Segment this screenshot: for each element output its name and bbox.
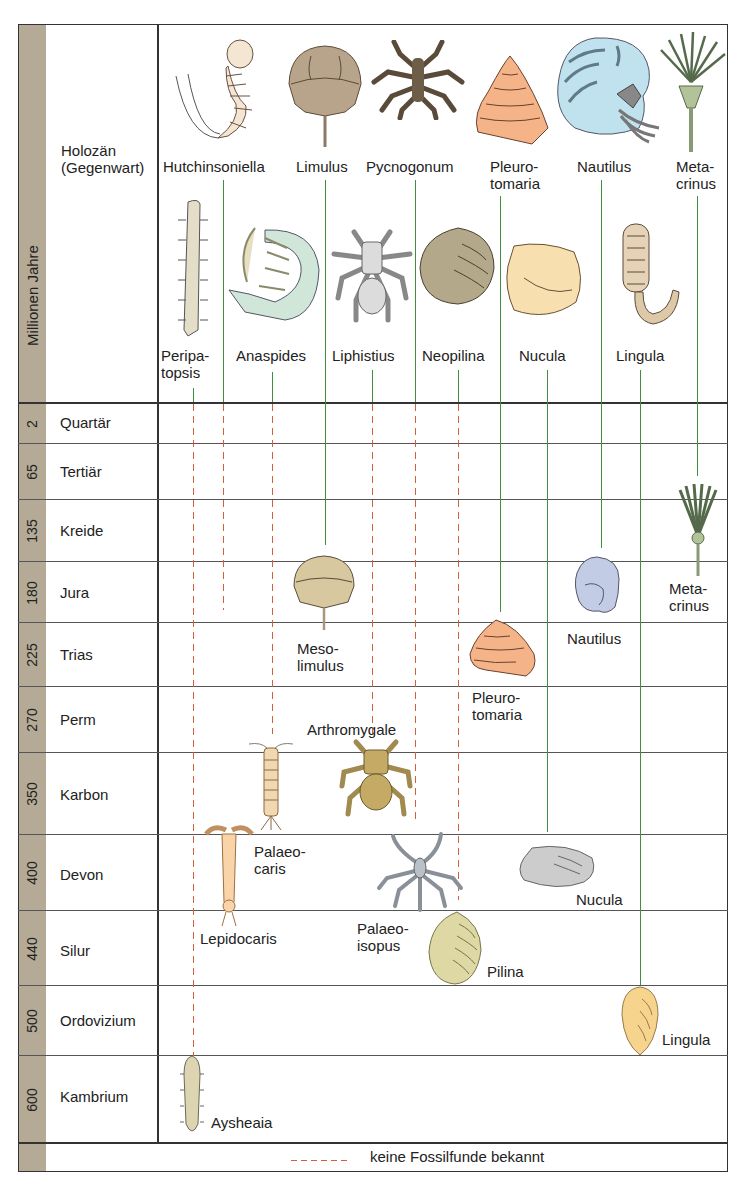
present-label-line2: (Gegenwart) xyxy=(61,159,144,176)
present-label-line1: Holozän xyxy=(61,142,144,159)
ma-trias: 225 xyxy=(18,624,46,686)
line-neopilina-gap xyxy=(458,404,459,900)
era-trias: Trias xyxy=(60,646,93,663)
label-lingula-fossil: Lingula xyxy=(662,1031,710,1048)
label-pleurotomaria-living: Pleuro-tomaria xyxy=(490,158,540,192)
ma-jura: 180 xyxy=(18,563,46,622)
ma-karbon: 350 xyxy=(18,754,46,834)
era-kreide: Kreide xyxy=(60,522,103,539)
line-anaspides-living xyxy=(272,372,273,402)
label-limulus: Limulus xyxy=(296,158,348,175)
line-metacrinus xyxy=(697,196,698,476)
metacrinus-icon xyxy=(655,30,730,155)
line-peripatopsis-living xyxy=(193,388,194,402)
label-line: Palaeo- xyxy=(357,920,409,937)
ma-value: 500 xyxy=(24,1009,40,1032)
era-devon: Devon xyxy=(60,866,103,883)
label-nautilus-living: Nautilus xyxy=(577,158,631,175)
ma-quartaer: 2 xyxy=(18,405,46,443)
peripatopsis-icon xyxy=(170,190,215,342)
era-jura: Jura xyxy=(60,584,89,601)
line-anaspides-gap xyxy=(272,404,273,734)
anaspides-icon xyxy=(225,220,325,330)
pycnogonum-icon xyxy=(370,40,465,120)
axis-title: Millionen Jahre xyxy=(18,195,46,395)
palaeocaris-icon xyxy=(245,738,297,832)
pleurotomaria-fossil-icon xyxy=(466,618,538,682)
ma-value: 65 xyxy=(24,464,40,480)
ma-value: 180 xyxy=(24,581,40,604)
label-line: Peripa- xyxy=(161,347,209,364)
ma-value: 135 xyxy=(24,519,40,542)
era-karbon: Karbon xyxy=(60,786,108,803)
pilina-icon xyxy=(427,910,483,986)
limulus-icon xyxy=(285,42,365,152)
aysheaia-icon xyxy=(178,1054,206,1140)
label-mesolimulus: Meso-limulus xyxy=(297,640,344,674)
line-liphistius-living xyxy=(372,370,373,402)
nucula-fossil-icon xyxy=(518,844,598,892)
column-divider xyxy=(157,24,159,1142)
label-line: crinus xyxy=(676,175,716,192)
era-tertiaer: Tertiär xyxy=(60,463,102,480)
line-lingula xyxy=(640,370,641,985)
ma-ordovizium: 500 xyxy=(18,987,46,1055)
pleurotomaria-icon xyxy=(470,52,560,147)
label-line: Pleuro- xyxy=(490,158,540,175)
line-nucula xyxy=(547,370,548,832)
label-liphistius: Liphistius xyxy=(332,347,395,364)
ma-value: 2 xyxy=(24,420,40,428)
label-aysheaia: Aysheaia xyxy=(211,1114,272,1131)
era-quartaer: Quartär xyxy=(60,414,111,431)
line-liphistius-gap xyxy=(372,404,373,734)
arthromygale-icon xyxy=(336,736,416,826)
label-metacrinus-fossil: Meta-crinus xyxy=(669,580,709,614)
era-kambrium: Kambrium xyxy=(60,1088,128,1105)
liphistius-icon xyxy=(328,222,416,330)
era-silur: Silur xyxy=(60,942,90,959)
label-line: tomaria xyxy=(490,175,540,192)
neopilina-icon xyxy=(418,224,496,306)
ma-tertiaer: 65 xyxy=(18,445,46,499)
row-divider xyxy=(18,834,728,835)
ma-value: 440 xyxy=(24,937,40,960)
ma-value: 600 xyxy=(24,1088,40,1111)
label-nautilus-fossil: Nautilus xyxy=(567,630,621,647)
ma-kreide: 135 xyxy=(18,501,46,561)
nucula-living-icon xyxy=(504,238,584,320)
label-palaeoisopus: Palaeo-isopus xyxy=(357,920,409,954)
ma-value: 225 xyxy=(24,643,40,666)
label-nucula-fossil: Nucula xyxy=(576,891,623,908)
label-neopilina: Neopilina xyxy=(422,347,485,364)
nautilus-fossil-icon xyxy=(573,555,621,617)
label-line: Meso- xyxy=(297,640,344,657)
ma-perm: 270 xyxy=(18,688,46,752)
label-pycnogonum: Pycnogonum xyxy=(366,158,454,175)
label-line: Pleuro- xyxy=(472,689,522,706)
era-perm: Perm xyxy=(60,711,96,728)
label-line: tomaria xyxy=(472,706,522,723)
nautilus-icon xyxy=(555,32,663,152)
label-line: limulus xyxy=(297,657,344,674)
line-pleurotomaria xyxy=(500,196,501,612)
line-limulus xyxy=(325,180,326,545)
ma-silur: 440 xyxy=(18,912,46,985)
line-hutchinsoniella-gap xyxy=(223,404,224,610)
label-lepidocaris: Lepidocaris xyxy=(200,930,277,947)
label-nucula-living: Nucula xyxy=(519,347,566,364)
legend-label: keine Fossilfunde bekannt xyxy=(370,1148,544,1165)
lingula-fossil-icon xyxy=(620,985,662,1057)
line-neopilina-living xyxy=(458,370,459,402)
label-line: caris xyxy=(254,860,306,877)
line-peripatopsis-gap xyxy=(193,404,194,1056)
ma-value: 350 xyxy=(24,782,40,805)
label-lingula-living: Lingula xyxy=(616,347,664,364)
lingula-living-icon xyxy=(615,220,685,330)
label-line: isopus xyxy=(357,937,409,954)
label-pilina: Pilina xyxy=(487,963,524,980)
ma-value: 400 xyxy=(24,861,40,884)
line-nautilus xyxy=(601,180,602,548)
label-hutchinsoniella: Hutchinsoniella xyxy=(163,158,265,175)
palaeoisopus-icon xyxy=(375,830,465,912)
label-palaeocaris: Palaeo-caris xyxy=(254,843,306,877)
